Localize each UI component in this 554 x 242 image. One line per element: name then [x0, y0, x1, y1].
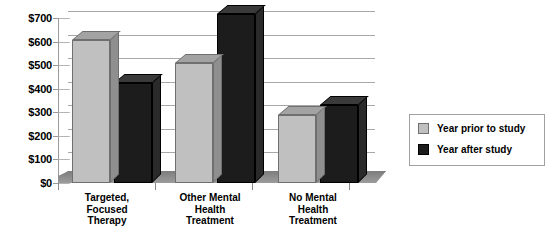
x-axis-category-line: No Mental	[264, 192, 362, 204]
legend-swatch-icon	[418, 144, 429, 155]
x-axis-tick	[252, 183, 253, 190]
bar	[217, 14, 255, 183]
x-axis-category-line: Therapy	[58, 215, 156, 227]
bar	[175, 63, 213, 183]
y-axis-tick-label: $200	[28, 130, 52, 142]
legend-swatch-icon	[418, 123, 429, 134]
bar-front-face	[278, 115, 316, 183]
y-axis: $0$100$200$300$400$500$600$700	[0, 0, 58, 200]
bar-front-face	[320, 105, 358, 183]
bar	[278, 115, 316, 183]
x-axis-labels: Targeted,FocusedTherapyOther MentalHealt…	[58, 192, 388, 238]
bar-front-face	[217, 14, 255, 183]
x-axis-category-label: Targeted,FocusedTherapy	[58, 192, 156, 227]
plot-area	[58, 12, 375, 183]
x-axis-category-label: Other MentalHealthTreatment	[161, 192, 259, 227]
bar-side-face	[255, 5, 264, 183]
bar-side-face	[110, 31, 119, 183]
gridline-depth-edge	[58, 11, 81, 19]
bar	[320, 105, 358, 183]
y-axis-tick-label: $600	[28, 36, 52, 48]
y-axis-tick-label: $500	[28, 59, 52, 71]
x-axis-category-line: Focused	[58, 204, 156, 216]
x-axis-category-line: Health	[264, 204, 362, 216]
x-axis-category-line: Other Mental	[161, 192, 259, 204]
bar-side-face	[213, 54, 222, 183]
x-axis-category-label: No MentalHealthTreatment	[264, 192, 362, 227]
x-axis-tick	[155, 183, 156, 190]
bar-side-face	[316, 106, 325, 183]
legend-item-0: Year prior to study	[418, 123, 525, 134]
y-axis-tick-label: $400	[28, 83, 52, 95]
bar-front-face	[175, 63, 213, 183]
y-axis-tick-label: $0	[40, 177, 52, 189]
bar-front-face	[72, 40, 110, 183]
bar-side-face	[152, 74, 161, 183]
y-axis-tick-label: $100	[28, 153, 52, 165]
bar-side-face	[358, 96, 367, 183]
y-axis-tick-label: $300	[28, 106, 52, 118]
x-axis-category-line: Health	[161, 204, 259, 216]
legend: Year prior to study Year after study	[409, 114, 545, 166]
x-axis-category-line: Targeted,	[58, 192, 156, 204]
legend-item-1: Year after study	[418, 144, 512, 155]
bar	[72, 40, 110, 183]
x-axis-category-line: Treatment	[161, 215, 259, 227]
bar-front-face	[114, 83, 152, 183]
legend-label: Year prior to study	[437, 123, 525, 134]
x-axis-category-line: Treatment	[264, 215, 362, 227]
legend-label: Year after study	[437, 144, 512, 155]
x-axis-tick	[58, 183, 59, 190]
bar-chart: $0$100$200$300$400$500$600$700 Targeted,…	[0, 0, 554, 242]
y-axis-tick-label: $700	[28, 12, 52, 24]
bar	[114, 83, 152, 183]
x-axis-tick	[349, 183, 350, 190]
